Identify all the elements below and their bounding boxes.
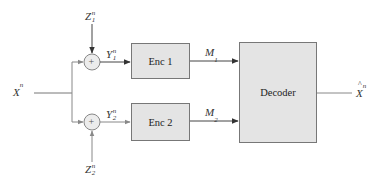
- output-label: Xn: [356, 88, 366, 99]
- adder-2-plus: +: [89, 117, 95, 127]
- encoder-2-block: Enc 2: [131, 103, 190, 141]
- noise-2-label: Zn2: [85, 163, 95, 177]
- noise-1-label: Zn1: [85, 10, 95, 24]
- message-1-label: M1: [205, 47, 218, 58]
- observation-2-label: Yn2: [106, 108, 116, 122]
- decoder-block: Decoder: [239, 42, 317, 143]
- encoder-1-block: Enc 1: [131, 43, 190, 79]
- adder-1-plus: +: [89, 57, 95, 67]
- message-2-label: M2: [205, 107, 218, 118]
- hat-accent: X: [356, 88, 363, 99]
- encoder-2-label: Enc 2: [148, 117, 172, 128]
- block-diagram: [0, 0, 383, 183]
- input-label: Xn: [13, 87, 23, 98]
- observation-1-label: Yn1: [106, 48, 116, 62]
- decoder-label: Decoder: [260, 87, 296, 98]
- encoder-1-label: Enc 1: [148, 56, 172, 67]
